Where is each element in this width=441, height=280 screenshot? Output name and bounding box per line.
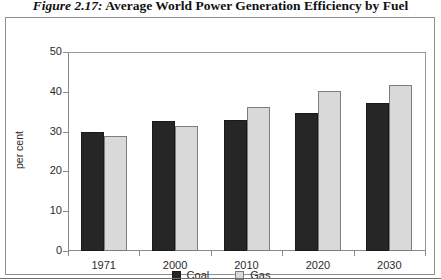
y-axis-tick-label: 40 — [30, 86, 62, 97]
plot-frame-right — [425, 52, 426, 251]
x-axis-tick-mark — [354, 251, 355, 256]
x-axis-tick-mark — [68, 251, 69, 256]
y-axis-tick-label: 20 — [30, 165, 62, 176]
figure-box: per cent 01020304050 1971200020102020203… — [5, 17, 435, 275]
bar-coal-1971 — [81, 132, 104, 251]
bar-gas-2010 — [247, 107, 270, 251]
figure-number: Figure 2.17: — [33, 0, 103, 13]
bar-gas-1971 — [104, 136, 127, 251]
x-axis-tick-mark — [211, 251, 212, 256]
x-axis-tick-mark — [425, 251, 426, 256]
bar-coal-2010 — [224, 120, 247, 251]
x-axis-tick-mark — [139, 251, 140, 256]
x-axis-tick-mark — [282, 251, 283, 256]
y-axis-label: per cent — [13, 120, 25, 180]
bar-coal-2000 — [152, 121, 175, 251]
y-axis-tick-label: 0 — [30, 245, 62, 256]
figure-title: Average World Power Generation Efficienc… — [105, 0, 408, 13]
figure-bottom-rule — [0, 278, 441, 279]
y-axis-tick-label: 30 — [30, 126, 62, 137]
bar-gas-2000 — [175, 126, 198, 251]
bars-layer — [68, 52, 425, 251]
bar-gas-2020 — [318, 91, 341, 251]
bar-coal-2020 — [295, 113, 318, 251]
y-axis-tick-label: 50 — [30, 46, 62, 57]
figure-caption: Figure 2.17: Average World Power Generat… — [0, 0, 441, 15]
bar-gas-2030 — [389, 85, 412, 251]
bar-coal-2030 — [366, 103, 389, 251]
y-axis-tick-label: 10 — [30, 205, 62, 216]
